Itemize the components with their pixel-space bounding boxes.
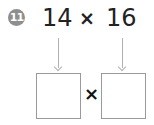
arrow-head-icon <box>54 63 62 71</box>
answer-box-b[interactable] <box>101 73 146 119</box>
arrow-head-icon <box>118 63 126 71</box>
answer-multiply-sign: × <box>84 83 99 105</box>
multiply-sign: × <box>79 6 95 30</box>
operand-b: 16 <box>106 4 137 32</box>
answer-box-a[interactable] <box>36 73 81 119</box>
problem-number-badge: 11 <box>8 9 25 26</box>
operand-a: 14 <box>42 4 73 32</box>
